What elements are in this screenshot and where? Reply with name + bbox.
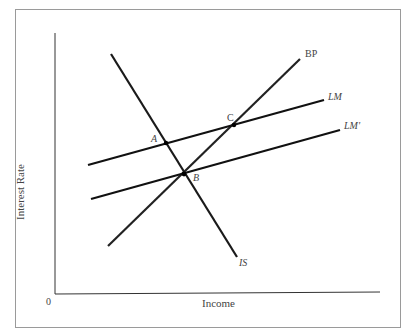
- bp-label: BP: [305, 48, 317, 59]
- point-a-label: A: [151, 133, 157, 144]
- is-curve: [111, 54, 237, 257]
- point-b-marker: [182, 172, 187, 177]
- diagram-canvas: [0, 0, 413, 336]
- point-c-marker: [232, 123, 236, 127]
- point-b-label: B: [193, 172, 199, 183]
- y-axis-label: Interest Rate: [14, 164, 26, 220]
- x-axis-label: Income: [202, 297, 235, 309]
- origin-label: 0: [46, 296, 51, 307]
- lm-prime-label: LM': [344, 120, 360, 131]
- is-label: IS: [239, 257, 247, 268]
- lm-curve: [88, 100, 324, 165]
- point-c-label: C: [227, 112, 234, 123]
- point-a-marker: [164, 141, 168, 145]
- x-axis: [55, 292, 380, 294]
- lm-label: LM: [328, 91, 342, 102]
